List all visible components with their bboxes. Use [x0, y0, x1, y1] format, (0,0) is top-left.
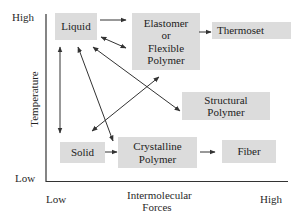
arrow-solid-elastomer — [92, 77, 159, 131]
arrow-liquid-elastomer-bidirectional — [101, 37, 126, 48]
arrow-liquid-crystalline — [78, 47, 113, 141]
arrow-liquid-structural — [93, 47, 180, 111]
diagram-connectors — [0, 0, 300, 221]
